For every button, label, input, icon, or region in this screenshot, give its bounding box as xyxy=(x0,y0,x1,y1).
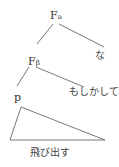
edge-root-right xyxy=(59,24,104,47)
leaf-na: な xyxy=(95,51,105,61)
tree-lines xyxy=(0,0,119,167)
edge-root-left xyxy=(37,24,53,44)
root-node: Fa xyxy=(50,10,62,23)
mid-subscript: β xyxy=(36,59,40,67)
edge-mid-left xyxy=(17,67,29,86)
edge-mid-right xyxy=(36,67,84,87)
root-subscript: a xyxy=(58,13,62,21)
root-label: F xyxy=(50,9,58,22)
mid-label: F xyxy=(28,55,36,68)
p-node: p xyxy=(14,92,21,103)
leaf-moshikashite: もしかして xyxy=(69,87,119,97)
triangle xyxy=(10,107,105,140)
triangle-label: 飛び出す xyxy=(30,148,70,158)
mid-node: Fβ xyxy=(28,56,40,69)
